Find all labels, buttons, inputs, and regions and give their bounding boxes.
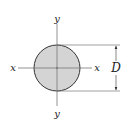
- circular-section-diagram: y y x x D: [0, 0, 130, 127]
- y-axis-label-bottom: y: [53, 108, 60, 119]
- x-axis-label-left: x: [10, 62, 16, 73]
- x-axis-label-right: x: [94, 62, 100, 73]
- diameter-label: D: [110, 61, 121, 75]
- y-axis-label-top: y: [53, 13, 60, 24]
- centroid-point: [56, 67, 58, 69]
